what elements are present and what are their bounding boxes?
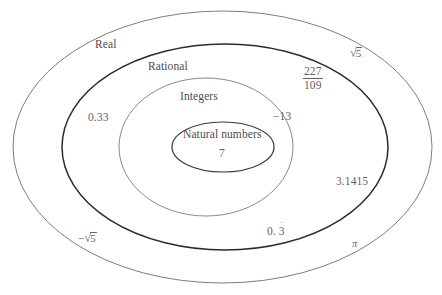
fraction-denominator: 109 [303,79,323,92]
set-label-real: Real [95,39,116,51]
radical-sqrt-5-negative: √5 [85,232,97,244]
member-irrational-pi-approx: 3.1415 [336,176,368,188]
member-integers-example: −13 [273,111,291,123]
member-rational-decimal: 0.33 [88,112,109,124]
repeating-decimal-digit: 3 [279,226,285,238]
member-irrational-pi: π [352,239,357,250]
member-rational-fraction: 227 109 [303,65,323,91]
repeating-decimal-prefix: 0. [267,225,279,237]
member-irrational-sqrt5: √5 [350,47,362,60]
member-rational-repeating-decimal: 0. 3 [267,226,285,238]
set-label-natural-numbers: Natural numbers [183,129,261,141]
member-irrational-negative-sqrt5: −√5 [78,232,97,245]
negative-sign: − [78,232,85,244]
number-sets-venn-diagram: Real Rational Integers Natural numbers 7… [0,0,442,295]
set-label-rational: Rational [148,61,188,73]
ellipse-rational [62,44,388,250]
member-natural-example: 7 [219,148,225,160]
fraction-227-over-109: 227 109 [303,65,323,91]
fraction-numerator: 227 [303,65,323,79]
set-label-integers: Integers [180,91,218,103]
overdot-icon [281,222,283,224]
radical-sqrt-5: √5 [350,47,362,59]
